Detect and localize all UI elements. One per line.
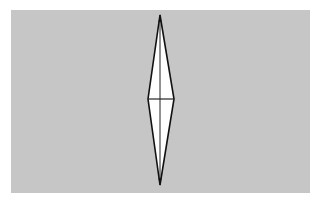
- diamond-shape: [148, 15, 174, 185]
- diamond-diagram: [0, 0, 317, 208]
